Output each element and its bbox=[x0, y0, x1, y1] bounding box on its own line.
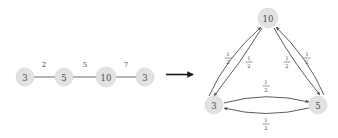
svg-text:1: 1 bbox=[264, 117, 267, 123]
node-right-5-label: 5 bbox=[315, 101, 320, 111]
svg-text:2: 2 bbox=[285, 63, 288, 69]
svg-text:1: 1 bbox=[247, 55, 250, 61]
svg-text:1: 1 bbox=[285, 55, 288, 61]
edge-weight-2: 2 bbox=[42, 61, 46, 69]
svg-text:2: 2 bbox=[305, 59, 308, 65]
arc-10-to-5 bbox=[274, 28, 320, 95]
arc-5-to-3 bbox=[224, 108, 309, 114]
prob-label-10-5: 1 2 bbox=[284, 55, 291, 69]
edge-weight-5: 5 bbox=[83, 61, 87, 69]
svg-text:1: 1 bbox=[226, 51, 229, 57]
edge-weight-7: 7 bbox=[124, 61, 128, 69]
svg-text:2: 2 bbox=[226, 59, 229, 65]
svg-text:2: 2 bbox=[264, 87, 267, 93]
prob-label-10-3: 1 2 bbox=[246, 55, 253, 69]
svg-text:1: 1 bbox=[305, 51, 308, 57]
node-right-10-label: 10 bbox=[263, 14, 274, 24]
prob-label-3-5: 1 2 bbox=[263, 79, 270, 93]
node-left-10-label: 10 bbox=[101, 73, 112, 83]
svg-text:1: 1 bbox=[264, 79, 267, 85]
node-left-3b-label: 3 bbox=[142, 73, 147, 83]
figure-canvas: 3 5 10 3 2 5 7 bbox=[0, 0, 338, 138]
left-path-graph: 3 5 10 3 2 5 7 bbox=[16, 61, 154, 87]
arc-3-to-10 bbox=[209, 27, 261, 96]
prob-label-5-10: 1 2 bbox=[304, 51, 311, 65]
svg-text:2: 2 bbox=[247, 63, 250, 69]
svg-text:2: 2 bbox=[264, 125, 267, 131]
prob-label-5-3: 1 2 bbox=[263, 117, 270, 131]
node-left-5-label: 5 bbox=[61, 73, 66, 83]
prob-label-3-10: 1 2 bbox=[225, 51, 232, 65]
arc-5-to-10 bbox=[276, 27, 324, 95]
arc-10-to-3 bbox=[214, 28, 262, 96]
right-triangle-digraph: 10 3 5 1 2 1 2 1 2 1 2 bbox=[205, 8, 327, 131]
arc-3-to-5 bbox=[224, 97, 309, 103]
node-left-3a-label: 3 bbox=[22, 73, 27, 83]
graph-transformation-figure: 3 5 10 3 2 5 7 bbox=[0, 0, 338, 138]
node-right-3-label: 3 bbox=[211, 101, 216, 111]
